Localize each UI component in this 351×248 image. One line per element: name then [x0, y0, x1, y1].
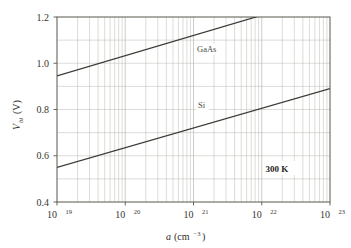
y-tick-label: 0.4	[37, 197, 50, 208]
series-label-si-text: Si	[198, 100, 206, 110]
series-label-gaas: GaAs	[195, 44, 224, 55]
x-tick-exponent: 23	[339, 208, 346, 215]
x-tick-exponent: 22	[270, 208, 277, 215]
annotation-temperature: 300 K	[263, 161, 298, 175]
x-tick-mantissa: 10	[184, 209, 194, 220]
x-axis-symbol: a	[166, 231, 171, 242]
y-axis-subscript: bi	[17, 118, 24, 123]
figure-container: 1.2 1.0 0.8 0.6 0.4 10 19 10 20 10 21 10…	[0, 0, 351, 248]
x-axis-unit-close: )	[202, 231, 205, 243]
x-tick-exponent: 19	[66, 208, 73, 215]
y-tick-label: 1.0	[37, 58, 50, 69]
x-axis-unit-open: (cm	[174, 231, 190, 243]
x-tick-exponent: 21	[202, 208, 209, 215]
y-tick-label: 0.8	[37, 104, 50, 115]
x-tick-mantissa: 10	[47, 209, 57, 220]
series-label-gaas-text: GaAs	[197, 44, 216, 54]
x-tick-exponent: 20	[134, 208, 141, 215]
y-axis-unit: (V)	[11, 100, 23, 114]
x-tick-mantissa: 10	[320, 209, 330, 220]
chart-svg: 1.2 1.0 0.8 0.6 0.4 10 19 10 20 10 21 10…	[0, 0, 351, 248]
x-axis-unit-exponent: −3	[194, 230, 201, 237]
y-tick-label: 1.2	[37, 12, 50, 23]
annotation-temperature-text: 300 K	[266, 164, 289, 174]
series-label-si: Si	[196, 100, 209, 111]
y-tick-label: 0.6	[37, 150, 50, 161]
x-tick-mantissa: 10	[252, 209, 262, 220]
x-tick-mantissa: 10	[115, 209, 125, 220]
